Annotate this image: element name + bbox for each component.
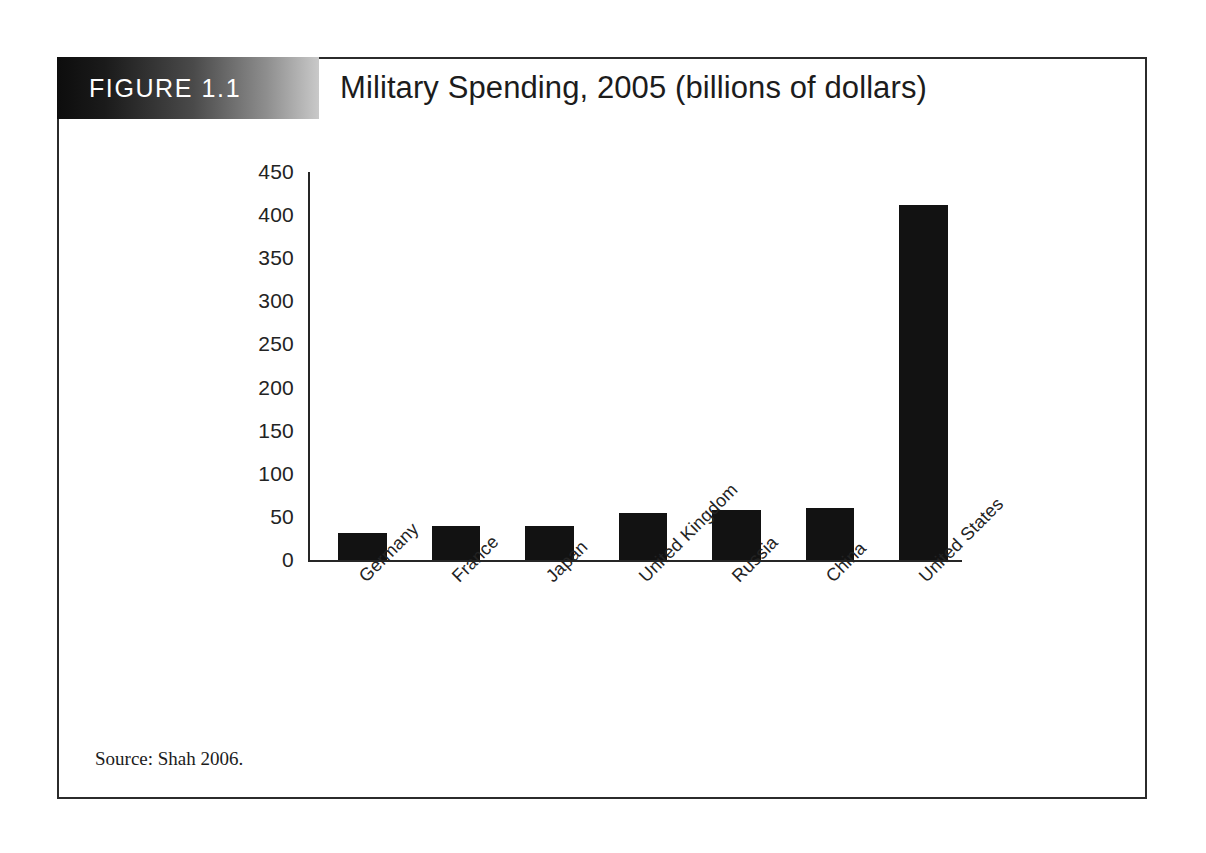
- y-tick-label: 50: [270, 505, 294, 529]
- y-tick-label: 0: [282, 548, 294, 572]
- x-axis-category-labels: GermanyFranceJapanUnited KingdomRussiaCh…: [308, 572, 1008, 692]
- chart-title: Military Spending, 2005 (billions of dol…: [340, 70, 927, 106]
- y-tick-label: 450: [258, 160, 294, 184]
- y-tick-label: 300: [258, 289, 294, 313]
- figure-container: FIGURE 1.1 Military Spending, 2005 (bill…: [0, 0, 1206, 853]
- y-tick-label: 400: [258, 203, 294, 227]
- y-tick-label: 250: [258, 332, 294, 356]
- figure-number-label: FIGURE 1.1: [57, 74, 241, 103]
- y-tick-label: 150: [258, 419, 294, 443]
- figure-number-banner: FIGURE 1.1: [57, 57, 319, 119]
- y-tick-label: 200: [258, 376, 294, 400]
- y-tick-label: 100: [258, 462, 294, 486]
- bar-united-states: [899, 205, 948, 560]
- plot-area: 450400350300250200150100500: [308, 172, 962, 562]
- y-tick-label: 350: [258, 246, 294, 270]
- x-axis-line: [308, 560, 962, 562]
- source-note: Source: Shah 2006.: [95, 748, 243, 770]
- y-axis-line: [308, 172, 310, 560]
